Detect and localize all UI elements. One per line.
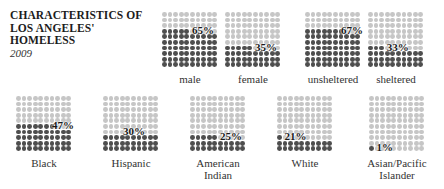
- dot-empty: [305, 18, 310, 23]
- dot-empty: [305, 124, 310, 129]
- dot-filled: [224, 146, 229, 151]
- dot-filled: [50, 141, 55, 146]
- dot-filled: [137, 141, 142, 146]
- dot-empty: [16, 107, 21, 112]
- dot-empty: [414, 96, 419, 101]
- dot-empty: [305, 118, 310, 123]
- dot-filled: [33, 146, 38, 151]
- dot-filled: [38, 146, 43, 151]
- dot-empty: [277, 96, 282, 101]
- dot-filled: [339, 46, 344, 51]
- dot-empty: [327, 107, 332, 112]
- dot-empty: [207, 18, 212, 23]
- dot-empty: [402, 23, 407, 28]
- dot-empty: [231, 18, 236, 23]
- dot-empty: [288, 102, 293, 107]
- dot-filled: [390, 62, 395, 67]
- dot-filled: [327, 146, 332, 151]
- dot-empty: [270, 23, 275, 28]
- dot-empty: [305, 23, 310, 28]
- dot-empty: [207, 124, 212, 129]
- dot-filled: [327, 62, 332, 67]
- dot-empty: [277, 102, 282, 107]
- dot-empty: [368, 12, 373, 17]
- dot-filled: [225, 62, 230, 67]
- dot-filled: [316, 40, 321, 45]
- dot-empty: [386, 118, 391, 123]
- dot-empty: [379, 34, 384, 39]
- dot-empty: [225, 40, 230, 45]
- dot-empty: [418, 46, 423, 51]
- dot-empty: [402, 34, 407, 39]
- dot-empty: [114, 102, 119, 107]
- dot-empty: [44, 102, 49, 107]
- dot-filled: [173, 46, 178, 51]
- dot-empty: [173, 12, 178, 17]
- dot-empty: [236, 18, 241, 23]
- dot-empty: [396, 34, 401, 39]
- dot-filled: [16, 130, 21, 135]
- dot-empty: [27, 96, 32, 101]
- dot-filled: [344, 51, 349, 56]
- dot-empty: [212, 18, 217, 23]
- dot-empty: [311, 23, 316, 28]
- dot-filled: [153, 135, 158, 140]
- dot-empty: [207, 12, 212, 17]
- dot-empty: [235, 102, 240, 107]
- dot-filled: [196, 146, 201, 151]
- dot-empty: [103, 96, 108, 101]
- dot-filled: [190, 141, 195, 146]
- dot-filled: [240, 146, 245, 151]
- dot-empty: [61, 113, 66, 118]
- dot-empty: [114, 130, 119, 135]
- dot-filled: [173, 62, 178, 67]
- dot-filled: [311, 34, 316, 39]
- dot-empty: [103, 102, 108, 107]
- dot-empty: [419, 96, 424, 101]
- dot-filled: [168, 51, 173, 56]
- dot-empty: [369, 107, 374, 112]
- dot-empty: [418, 34, 423, 39]
- dot-filled: [327, 29, 332, 34]
- dot-empty: [218, 118, 223, 123]
- dot-filled: [190, 57, 195, 62]
- dot-filled: [277, 146, 282, 151]
- dot-empty: [240, 118, 245, 123]
- dot-filled: [339, 62, 344, 67]
- dot-filled: [173, 34, 178, 39]
- dot-filled: [184, 34, 189, 39]
- dot-filled: [207, 62, 212, 67]
- dot-filled: [322, 46, 327, 51]
- dot-empty: [408, 96, 413, 101]
- category-label-line: Hispanic: [81, 157, 181, 169]
- dot-empty: [355, 18, 360, 23]
- dot-empty: [397, 130, 402, 135]
- dot-empty: [190, 113, 195, 118]
- dot-filled: [16, 124, 21, 129]
- dot-empty: [61, 96, 66, 101]
- dot-empty: [148, 124, 153, 129]
- dot-filled: [344, 57, 349, 62]
- percent-label: 67%: [341, 25, 363, 36]
- dot-empty: [212, 107, 217, 112]
- dot-empty: [103, 130, 108, 135]
- dot-empty: [283, 107, 288, 112]
- dot-empty: [190, 124, 195, 129]
- dot-empty: [148, 118, 153, 123]
- dot-filled: [38, 135, 43, 140]
- dot-empty: [264, 34, 269, 39]
- dot-empty: [390, 12, 395, 17]
- dot-filled: [212, 40, 217, 45]
- dot-empty: [408, 135, 413, 140]
- dot-empty: [190, 96, 195, 101]
- dot-empty: [397, 118, 402, 123]
- dot-filled: [247, 62, 252, 67]
- dot-empty: [137, 96, 142, 101]
- dot-empty: [231, 34, 236, 39]
- dot-empty: [327, 102, 332, 107]
- percent-label: 1%: [377, 142, 394, 153]
- dot-empty: [240, 124, 245, 129]
- dot-empty: [311, 96, 316, 101]
- dot-filled: [413, 51, 418, 56]
- dot-filled: [33, 124, 38, 129]
